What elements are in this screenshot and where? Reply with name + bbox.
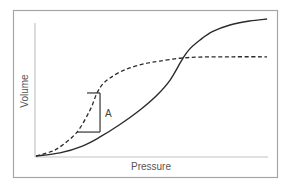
bracket-label: A: [105, 108, 112, 119]
x-axis-label: Pressure: [131, 161, 171, 172]
series-dashed-line: [36, 57, 267, 156]
series-solid-line: [36, 19, 267, 156]
chart-frame: [14, 11, 278, 178]
y-axis-label: Volume: [19, 74, 30, 108]
chart: A Pressure Volume: [0, 0, 287, 184]
